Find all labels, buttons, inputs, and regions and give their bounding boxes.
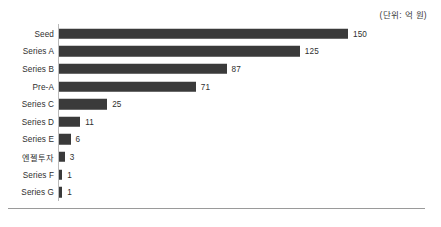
bar-value-label-2: 125 [305, 47, 319, 56]
bar-3 [59, 64, 227, 75]
bar-8 [59, 152, 65, 163]
category-label-8: 엔젤투자 [0, 151, 54, 163]
bar-value-label-8: 3 [70, 152, 75, 161]
bar-value-label-5: 25 [112, 100, 121, 109]
category-label-1: Seed [0, 29, 54, 38]
bar-10 [59, 187, 62, 198]
bar-value-label-7: 6 [76, 135, 81, 144]
bar-row: Seed150 [0, 25, 441, 43]
bottom-divider [8, 208, 425, 209]
bar-row: Series E6 [0, 131, 441, 149]
category-label-5: Series C [0, 100, 54, 109]
bar-value-label-4: 71 [201, 82, 210, 91]
category-label-2: Series A [0, 47, 54, 56]
category-label-9: Series F [0, 170, 54, 179]
bar-2 [59, 46, 300, 57]
bar-4 [59, 81, 196, 92]
bar-6 [59, 117, 80, 128]
bar-row: Series A125 [0, 43, 441, 61]
bar-value-label-6: 11 [85, 117, 94, 126]
bar-value-label-1: 150 [353, 29, 367, 38]
bar-value-label-3: 87 [232, 64, 241, 73]
bar-row: Series B87 [0, 60, 441, 78]
bar-value-label-9: 1 [67, 170, 72, 179]
bar-row: Series D11 [0, 113, 441, 131]
bar-row: Series C25 [0, 95, 441, 113]
bar-row: Pre-A71 [0, 78, 441, 96]
bar-9 [59, 169, 62, 180]
plot-area: Seed150Series A125Series B87Pre-A71Serie… [0, 24, 441, 202]
bar-row: Series F1 [0, 166, 441, 184]
bar-1 [59, 29, 348, 40]
bar-row: 엔젤투자3 [0, 148, 441, 166]
bar-5 [59, 99, 107, 110]
category-label-4: Pre-A [0, 82, 54, 91]
bar-7 [59, 134, 71, 145]
bar-value-label-10: 1 [67, 188, 72, 197]
unit-caption: (단위: 억 원) [380, 8, 427, 20]
bar-row: Series G1 [0, 183, 441, 201]
bar-chart-figure: (단위: 억 원) Seed150Series A125Series B87Pr… [0, 0, 441, 227]
category-label-3: Series B [0, 64, 54, 73]
category-label-7: Series E [0, 135, 54, 144]
category-label-6: Series D [0, 117, 54, 126]
category-label-10: Series G [0, 188, 54, 197]
